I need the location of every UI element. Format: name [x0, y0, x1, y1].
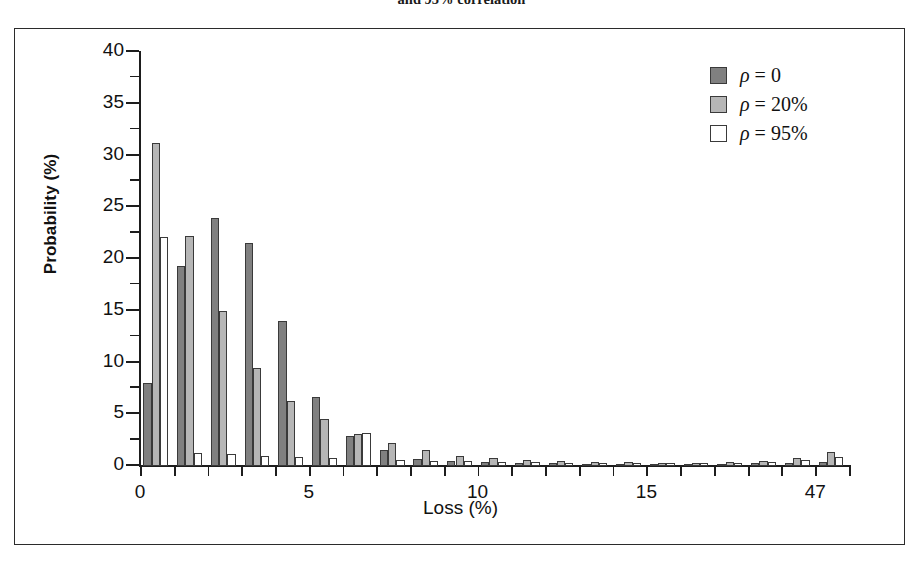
y-axis-minor-tick	[130, 179, 139, 181]
x-axis-tick-label: 5	[279, 481, 339, 503]
bar	[177, 266, 185, 466]
y-axis-tick	[126, 154, 139, 156]
bar	[549, 463, 557, 466]
y-axis-tick-label: 30	[80, 143, 124, 165]
bar	[666, 463, 674, 466]
bar	[396, 460, 404, 466]
bar	[194, 453, 202, 466]
bar	[380, 450, 388, 466]
bar	[633, 463, 641, 466]
bar	[726, 462, 734, 466]
y-axis-tick-label: 35	[80, 91, 124, 113]
x-axis-tick	[140, 465, 142, 476]
bar	[515, 463, 523, 466]
bar	[253, 368, 261, 466]
bar	[413, 459, 421, 466]
legend-label-rho-0: ρ = 0	[740, 64, 781, 87]
bar	[734, 463, 742, 466]
bar	[658, 463, 666, 466]
x-axis-tick	[849, 465, 851, 476]
x-axis-tick	[376, 465, 378, 476]
bar	[143, 383, 151, 466]
legend-item: ρ = 95%	[710, 119, 890, 148]
bar	[599, 463, 607, 466]
y-axis-minor-tick	[130, 76, 139, 78]
bar	[287, 401, 295, 466]
bar	[684, 464, 692, 466]
bar	[591, 462, 599, 466]
x-axis-tick	[545, 465, 547, 476]
legend-label-rho-20: ρ = 20%	[740, 93, 808, 116]
y-axis-tick-label: 10	[80, 350, 124, 372]
x-axis-tick	[410, 465, 412, 476]
bar	[278, 321, 286, 466]
y-axis-minor-tick	[130, 438, 139, 440]
legend-label-rho-95: ρ = 95%	[740, 122, 808, 145]
x-axis-tick-label: 47	[785, 481, 845, 503]
x-axis-tick-label: 0	[110, 481, 170, 503]
x-axis-tick	[714, 465, 716, 476]
y-axis-tick	[126, 50, 139, 52]
y-axis-label: Probability (%)	[41, 114, 61, 314]
x-axis-tick	[174, 465, 176, 476]
bar	[245, 243, 253, 466]
bar	[219, 311, 227, 466]
x-axis-tick	[781, 465, 783, 476]
bar	[346, 436, 354, 466]
legend-swatch-rho-95	[710, 125, 727, 142]
y-axis-tick	[126, 309, 139, 311]
y-axis-tick-label: 40	[80, 39, 124, 61]
bar	[211, 218, 219, 466]
y-axis-tick	[126, 102, 139, 104]
bar	[295, 457, 303, 466]
bar	[362, 433, 370, 466]
bar	[827, 452, 835, 466]
y-axis-tick-label: 0	[80, 453, 124, 475]
bar	[624, 462, 632, 466]
bar	[700, 463, 708, 466]
bar	[692, 463, 700, 466]
x-axis-tick-label: 10	[448, 481, 508, 503]
x-axis-tick-label: 15	[616, 481, 676, 503]
legend-item: ρ = 20%	[710, 90, 890, 119]
x-axis-tick	[275, 465, 277, 476]
x-axis-tick	[444, 465, 446, 476]
bar	[329, 458, 337, 466]
y-axis-tick	[126, 464, 139, 466]
bar	[388, 443, 396, 466]
bar	[430, 461, 438, 466]
bar	[447, 461, 455, 466]
x-axis-tick	[511, 465, 513, 476]
x-axis-tick	[478, 465, 480, 476]
x-axis-tick	[208, 465, 210, 476]
legend-swatch-rho-20	[710, 96, 727, 113]
bar	[312, 397, 320, 466]
bar	[785, 463, 793, 466]
bar	[498, 462, 506, 466]
y-axis-tick	[126, 361, 139, 363]
x-axis-tick	[241, 465, 243, 476]
bar	[152, 143, 160, 466]
y-axis-tick-label: 25	[80, 194, 124, 216]
bar	[801, 460, 809, 466]
bar	[819, 462, 827, 466]
y-axis-minor-tick	[130, 128, 139, 130]
figure-frame: Probability (%) Loss (%) 051015202530354…	[14, 28, 905, 545]
bar	[557, 461, 565, 466]
bar	[261, 456, 269, 466]
y-axis-tick-label: 5	[80, 401, 124, 423]
bar	[565, 463, 573, 466]
y-axis-tick	[126, 205, 139, 207]
bar	[422, 450, 430, 466]
figure-caption: and 95% correlation	[0, 0, 923, 8]
figure-caption-clip: and 95% correlation	[0, 0, 923, 12]
x-axis-tick	[680, 465, 682, 476]
chart-legend: ρ = 0 ρ = 20% ρ = 95%	[710, 61, 890, 148]
bar	[650, 464, 658, 466]
bar	[464, 461, 472, 466]
x-axis-tick	[579, 465, 581, 476]
y-axis-minor-tick	[130, 335, 139, 337]
legend-swatch-rho-0	[710, 67, 727, 84]
y-axis-tick-label: 20	[80, 246, 124, 268]
x-axis-tick	[343, 465, 345, 476]
